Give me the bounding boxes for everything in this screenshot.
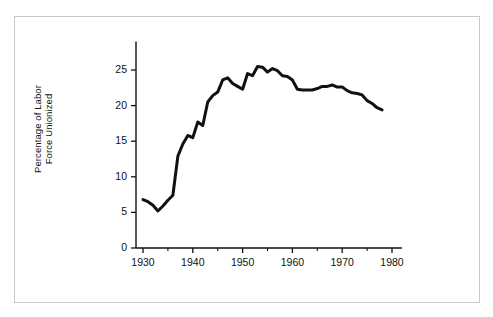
axis-ticks — [131, 70, 392, 253]
series-line-0 — [143, 66, 382, 211]
y-tick-label: 15 — [105, 134, 127, 146]
x-tick-label: 1980 — [372, 256, 412, 268]
x-tick-label: 1950 — [223, 256, 263, 268]
x-tick-label: 1970 — [322, 256, 362, 268]
y-tick-label: 25 — [105, 63, 127, 75]
plot-area — [0, 0, 493, 317]
x-tick-label: 1930 — [123, 256, 163, 268]
y-tick-label: 0 — [105, 241, 127, 253]
y-tick-label: 10 — [105, 170, 127, 182]
chart-figure: Percentage of Labor Force Unionized 0510… — [0, 0, 493, 317]
data-series — [143, 66, 382, 211]
y-tick-label: 20 — [105, 99, 127, 111]
y-tick-label: 5 — [105, 205, 127, 217]
x-tick-label: 1960 — [272, 256, 312, 268]
x-tick-label: 1940 — [173, 256, 213, 268]
